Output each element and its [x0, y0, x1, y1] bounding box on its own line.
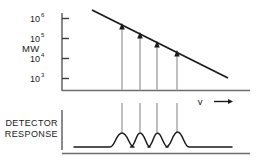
- x-axis-arrow-icon: [214, 99, 233, 104]
- top-y-axis-label: MW: [22, 43, 39, 54]
- top-x-axis-label: v: [198, 96, 203, 107]
- power-envelope-line: [92, 10, 228, 78]
- y-tick-exponent-1e6: 6: [41, 12, 45, 18]
- y-tick-exponent-1e3: 3: [41, 72, 45, 78]
- y-tick-label-1e3: 10 3: [30, 72, 45, 84]
- detector-response-label-line2: RESPONSE: [5, 129, 58, 139]
- mode-line-2: [137, 32, 143, 91]
- y-tick-mantissa-1e4: 10: [30, 54, 40, 64]
- y-tick-label-1e6: 10 6: [30, 12, 45, 24]
- y-tick-mantissa-1e6: 10: [30, 14, 40, 24]
- detector-response-trace: [74, 132, 232, 147]
- mode-line-3: [154, 41, 160, 91]
- mode-line-1: [119, 23, 125, 91]
- y-tick-exponent-1e5: 5: [41, 32, 45, 38]
- top-panel: 10 6 10 5 10 4 10 3 MW: [22, 10, 250, 107]
- y-tick-mantissa-1e3: 10: [30, 74, 40, 84]
- mode-line-4: [174, 50, 180, 91]
- figure-svg: 10 6 10 5 10 4 10 3 MW: [0, 0, 262, 162]
- bottom-panel: DETECTOR RESPONSE: [5, 103, 250, 154]
- y-tick-exponent-1e4: 4: [41, 52, 45, 58]
- figure-root: 10 6 10 5 10 4 10 3 MW: [0, 0, 262, 162]
- detector-response-label-line1: DETECTOR: [5, 118, 58, 128]
